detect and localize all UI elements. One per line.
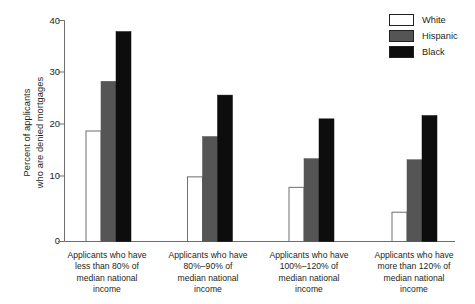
x-category-label-2: Applicants who have 80%–90% of median na… (157, 250, 259, 296)
bar-black-group-1 (116, 32, 131, 242)
legend-label-white: White (422, 14, 446, 26)
bars-layer (86, 32, 437, 242)
legend-item-black: Black (389, 45, 475, 61)
legend: White Hispanic Black (389, 13, 475, 61)
x-category-label-2-line-1: Applicants who have (157, 250, 259, 261)
legend-item-white: White (389, 13, 475, 29)
x-category-label-2-line-2: 80%–90% of (157, 261, 259, 272)
x-category-label-2-line-3: median national (157, 273, 259, 284)
bar-white-group-4 (392, 212, 407, 241)
bar-black-group-3 (319, 119, 334, 242)
bar-chart: Percent of applicants who are denied mor… (0, 0, 475, 304)
x-category-label-3-line-3: median national (258, 273, 360, 284)
legend-item-hispanic: Hispanic (389, 29, 475, 45)
x-category-label-3-line-1: Applicants who have (258, 250, 360, 261)
x-category-label-1-line-2: less than 80% of (56, 261, 158, 272)
bar-black-group-2 (218, 95, 233, 241)
legend-swatch-black (389, 46, 414, 58)
x-category-label-3-line-4: income (258, 284, 360, 295)
x-category-label-4-line-4: income (363, 284, 465, 295)
x-category-label-1-line-4: income (56, 284, 158, 295)
legend-label-hispanic: Hispanic (422, 30, 458, 42)
legend-swatch-white (389, 14, 414, 26)
x-category-label-4-line-1: Applicants who have (363, 250, 465, 261)
x-category-label-4-line-3: median national (363, 273, 465, 284)
x-category-label-3: Applicants who have 100%–120% of median … (258, 250, 360, 296)
x-category-label-1: Applicants who have less than 80% of med… (56, 250, 158, 296)
bar-white-group-2 (188, 177, 203, 242)
x-category-label-2-line-4: income (157, 284, 259, 295)
x-category-label-4: Applicants who have more than 120% of me… (363, 250, 465, 296)
bar-black-group-4 (422, 116, 437, 242)
y-axis-ticks (58, 21, 65, 242)
x-category-label-3-line-2: 100%–120% of (258, 261, 360, 272)
bar-white-group-1 (86, 131, 101, 242)
x-category-label-1-line-1: Applicants who have (56, 250, 158, 261)
bar-hispanic-group-3 (304, 159, 319, 242)
x-category-label-1-line-3: median national (56, 273, 158, 284)
bar-white-group-3 (289, 187, 304, 241)
x-category-label-4-line-2: more than 120% of (363, 261, 465, 272)
bar-hispanic-group-2 (203, 137, 218, 242)
bar-hispanic-group-1 (101, 81, 116, 241)
legend-label-black: Black (422, 46, 445, 58)
legend-swatch-hispanic (389, 30, 414, 42)
bar-hispanic-group-4 (407, 160, 422, 242)
